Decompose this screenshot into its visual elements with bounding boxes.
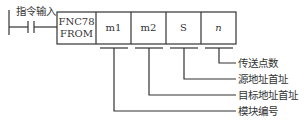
leader-m2 bbox=[149, 48, 236, 95]
function-name: FROM bbox=[60, 28, 93, 40]
function-cell: FNC78 FROM bbox=[57, 12, 96, 44]
operand-m1: m1 bbox=[96, 12, 131, 44]
operand-n: n bbox=[201, 12, 236, 44]
input-label: 指令输入 bbox=[16, 5, 56, 17]
annotation-m1: 模块编号 bbox=[238, 105, 278, 117]
annotation-n: 传送点数 bbox=[238, 57, 278, 69]
operand-s: S bbox=[166, 12, 201, 44]
leader-n bbox=[219, 48, 236, 63]
annotation-m2: 目标地址首址 bbox=[238, 89, 298, 101]
annotation-s: 源地址首址 bbox=[238, 73, 288, 85]
operand-m2: m2 bbox=[131, 12, 166, 44]
function-code: FNC78 bbox=[58, 16, 94, 28]
